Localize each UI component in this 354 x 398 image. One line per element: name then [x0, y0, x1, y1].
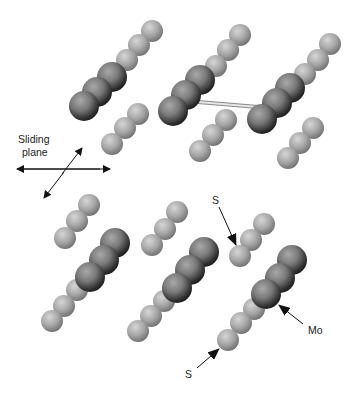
sulfur-label-upper: S — [212, 194, 219, 206]
molybdenum-atom — [251, 279, 281, 309]
molybdenum-atom — [247, 104, 277, 134]
sliding-plane-normal-arrow — [62, 148, 82, 174]
mos2-structure-diagram: Sliding plane S Mo S — [0, 0, 354, 398]
sulfur-atom-row — [229, 213, 275, 267]
atom-layers — [41, 20, 341, 351]
molybdenum-atom — [75, 262, 105, 292]
molybdenum-atom-row — [158, 65, 215, 126]
molybdenum-label: Mo — [308, 324, 323, 336]
sulfur-atom-row — [54, 194, 100, 249]
sulfur-atom-row — [141, 201, 188, 256]
sulfur-atom-row — [277, 117, 324, 169]
sulfur-atom — [41, 310, 63, 332]
molybdenum-atom — [69, 91, 99, 121]
sulfur-atom — [217, 329, 239, 351]
molybdenum-atom-row — [162, 237, 219, 303]
molybdenum-atom — [158, 96, 188, 126]
molybdenum-atom-row — [247, 73, 305, 134]
sulfur-atom — [54, 227, 76, 249]
interlayer-bond — [198, 102, 258, 107]
sulfur-label-lower: S — [185, 368, 192, 380]
sliding-plane-normal-arrow-back — [44, 172, 64, 198]
sulfur-pointer-arrow-upper — [219, 207, 236, 245]
molybdenum-atom-row — [75, 228, 130, 292]
sulfur-atom-row — [294, 33, 341, 85]
sulfur-atom — [229, 245, 251, 267]
sulfur-atom — [141, 234, 163, 256]
molybdenum-atom-row — [251, 245, 307, 309]
sulfur-pointer-arrow-lower — [197, 349, 219, 368]
sulfur-atom — [277, 147, 299, 169]
molybdenum-pointer-arrow — [279, 305, 303, 324]
sulfur-atom-row — [205, 24, 251, 77]
molybdenum-atom — [162, 273, 192, 303]
sliding-plane-label-line2: plane — [22, 146, 48, 158]
sliding-plane-label-line1: Sliding — [18, 133, 50, 145]
sulfur-atom — [189, 140, 211, 162]
sulfur-atom — [127, 320, 149, 342]
sulfur-atom-row — [116, 20, 163, 71]
sulfur-atom-row — [189, 109, 237, 162]
sulfur-atom — [101, 133, 123, 155]
sulfur-atom-row — [101, 103, 149, 155]
molybdenum-atom-row — [69, 62, 127, 121]
